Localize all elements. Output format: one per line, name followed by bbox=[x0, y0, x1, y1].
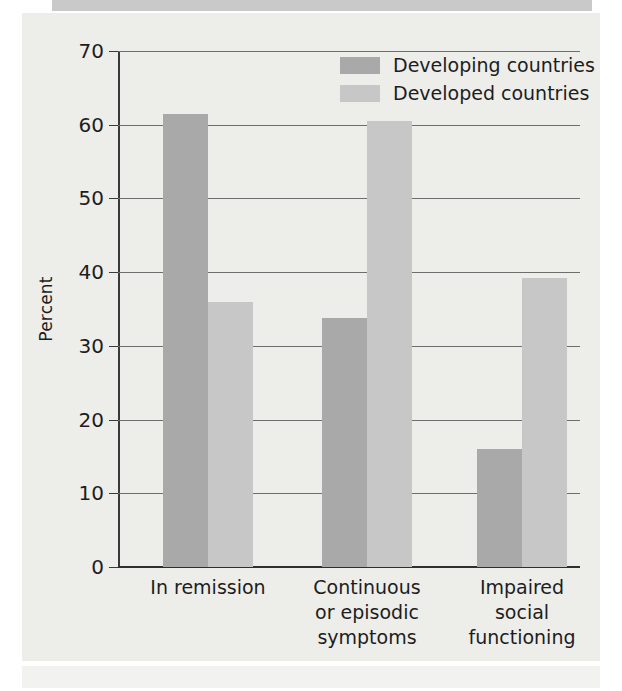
scan-artifact-top-band bbox=[52, 0, 592, 11]
chart-page: Percent 706050403020100 In remissionCont… bbox=[0, 0, 622, 691]
y-tick-label-50: 50 bbox=[79, 186, 104, 210]
y-tick-mark-10 bbox=[109, 493, 118, 494]
y-tick-mark-70 bbox=[109, 51, 118, 52]
x-category-label-2: Impaired social functioning bbox=[427, 575, 617, 650]
y-tick-label-70: 70 bbox=[79, 39, 104, 63]
y-tick-mark-40 bbox=[109, 272, 118, 273]
y-tick-label-60: 60 bbox=[79, 113, 104, 137]
legend-label-developing: Developing countries bbox=[393, 54, 595, 76]
legend-label-developed: Developed countries bbox=[393, 82, 589, 104]
bar-developed-group-0 bbox=[208, 302, 253, 567]
chart-legend: Developing countries Developed countries bbox=[340, 51, 584, 107]
legend-swatch-icon-developed bbox=[340, 85, 380, 102]
legend-item-developed: Developed countries bbox=[340, 79, 584, 107]
y-tick-label-0: 0 bbox=[91, 555, 104, 579]
y-tick-mark-30 bbox=[109, 346, 118, 347]
bar-developing-group-1 bbox=[322, 318, 367, 567]
y-tick-label-30: 30 bbox=[79, 334, 104, 358]
plot-area: 706050403020100 bbox=[118, 51, 580, 567]
y-tick-mark-50 bbox=[109, 198, 118, 199]
y-axis-line bbox=[118, 51, 120, 567]
bar-developing-group-0 bbox=[163, 114, 208, 567]
bar-developed-group-2 bbox=[522, 278, 567, 567]
bar-developed-group-1 bbox=[367, 121, 412, 567]
y-tick-label-40: 40 bbox=[79, 260, 104, 284]
y-tick-mark-20 bbox=[109, 420, 118, 421]
scan-artifact-bottom-band bbox=[22, 666, 600, 688]
y-tick-mark-60 bbox=[109, 125, 118, 126]
legend-item-developing: Developing countries bbox=[340, 51, 584, 79]
legend-swatch-icon-developing bbox=[340, 57, 380, 74]
y-tick-label-10: 10 bbox=[79, 481, 104, 505]
y-axis-title: Percent bbox=[36, 276, 56, 341]
y-tick-label-20: 20 bbox=[79, 408, 104, 432]
bar-chart-figure: Percent 706050403020100 In remissionCont… bbox=[22, 13, 600, 661]
y-tick-mark-0 bbox=[109, 567, 118, 568]
bar-developing-group-2 bbox=[477, 449, 522, 567]
